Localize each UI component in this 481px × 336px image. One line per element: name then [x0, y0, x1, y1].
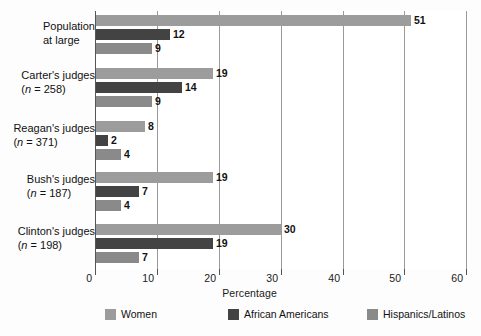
category-label-carter: Carter's judges (n = 258) — [21, 69, 95, 96]
bar-bush-hispanics — [96, 200, 121, 211]
tick-mark-0 — [95, 269, 96, 275]
bar-population-women — [96, 15, 411, 26]
x-axis-title: Percentage — [0, 287, 481, 299]
category-label-line2: (n = 258) — [21, 83, 95, 97]
legend-item-hispanics-latinos: Hispanics/Latinos — [367, 308, 465, 320]
legend-label-african-americans: African Americans — [244, 308, 329, 320]
bar-population-hispanics — [96, 43, 152, 54]
bar-value-bush-women: 19 — [214, 172, 228, 183]
x-tick-label-40: 40 — [328, 272, 342, 284]
category-label-line2: at large — [43, 34, 95, 48]
bar-reagan-african-americans — [96, 135, 108, 146]
bar-clinton-african-americans — [96, 238, 213, 249]
bar-population-african-americans — [96, 29, 170, 40]
bar-bush-women — [96, 172, 213, 183]
category-label-line2: (n = 371) — [13, 136, 95, 150]
tick-mark-10 — [157, 269, 158, 275]
bar-carter-women — [96, 68, 213, 79]
category-label-clinton: Clinton's judges (n = 198) — [18, 225, 95, 252]
x-tick-label-30: 30 — [266, 272, 280, 284]
x-tick-label-60: 60 — [451, 272, 465, 284]
legend-item-african-americans: African Americans — [228, 308, 329, 320]
n-value: = 198) — [27, 239, 62, 251]
bar-value-carter-women: 19 — [214, 68, 228, 79]
x-tick-label-50: 50 — [389, 272, 403, 284]
bar-value-clinton-women: 30 — [282, 224, 296, 235]
category-label-line2: (n = 198) — [18, 239, 95, 253]
bar-carter-hispanics — [96, 96, 152, 107]
tick-mark-40 — [343, 269, 344, 275]
bar-value-clinton-hispanics: 7 — [140, 252, 148, 263]
gridline-60 — [466, 11, 467, 269]
bar-value-reagan-hispanics: 4 — [122, 149, 130, 160]
bar-value-population-hispanics: 9 — [153, 43, 161, 54]
gridline-50 — [404, 11, 405, 269]
legend-label-hispanics-latinos: Hispanics/Latinos — [383, 308, 465, 320]
bar-clinton-women — [96, 224, 281, 235]
x-tick-label-0: 0 — [86, 272, 94, 284]
legend-item-women: Women — [105, 308, 157, 320]
bar-chart: 0 10 20 30 40 50 60 Percentage Populatio… — [0, 0, 481, 336]
bar-value-population-african-americans: 12 — [171, 29, 185, 40]
bar-value-population-women: 51 — [412, 15, 426, 26]
category-label-line2: (n = 187) — [27, 187, 95, 201]
category-label-line1: Carter's judges — [21, 69, 95, 83]
bar-value-bush-hispanics: 4 — [122, 200, 130, 211]
n-value: = 258) — [31, 83, 66, 95]
legend-swatch-icon-african-americans — [228, 309, 239, 320]
category-label-line1: Reagan's judges — [13, 122, 95, 136]
tick-mark-20 — [219, 269, 220, 275]
category-label-line1: Clinton's judges — [18, 225, 95, 239]
category-label-line1: Population — [43, 20, 95, 34]
category-label-bush: Bush's judges (n = 187) — [27, 173, 95, 200]
bar-reagan-women — [96, 121, 145, 132]
legend-label-women: Women — [121, 308, 157, 320]
category-label-population: Population at large — [43, 20, 95, 47]
bar-value-carter-african-americans: 14 — [183, 82, 197, 93]
bar-bush-african-americans — [96, 186, 139, 197]
x-tick-label-20: 20 — [204, 272, 218, 284]
bar-carter-african-americans — [96, 82, 182, 93]
legend-swatch-icon-women — [105, 309, 116, 320]
n-value: = 187) — [37, 187, 72, 199]
bar-value-reagan-women: 8 — [146, 121, 154, 132]
x-axis-title-text: Percentage — [222, 287, 277, 299]
bar-reagan-hispanics — [96, 149, 121, 160]
tick-mark-30 — [281, 269, 282, 275]
bar-clinton-hispanics — [96, 252, 139, 263]
category-label-reagan: Reagan's judges (n = 371) — [13, 122, 95, 149]
bar-value-reagan-african-americans: 2 — [109, 135, 117, 146]
x-tick-label-10: 10 — [142, 272, 156, 284]
tick-mark-50 — [404, 269, 405, 275]
legend-swatch-icon-hispanics-latinos — [367, 309, 378, 320]
bar-value-bush-african-americans: 7 — [140, 186, 148, 197]
gridline-40 — [343, 11, 344, 269]
category-label-line1: Bush's judges — [27, 173, 95, 187]
n-value: = 371) — [23, 136, 58, 148]
bar-value-clinton-african-americans: 19 — [214, 238, 228, 249]
tick-mark-60 — [466, 269, 467, 275]
bar-value-carter-hispanics: 9 — [153, 96, 161, 107]
